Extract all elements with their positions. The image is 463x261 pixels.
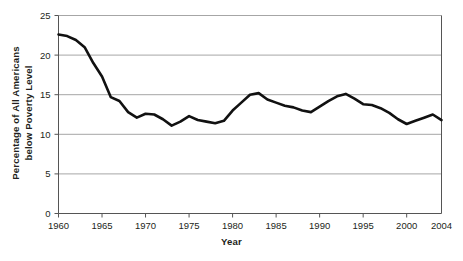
y-tick-label-10: 10 bbox=[40, 129, 51, 140]
x-tick-label-1985: 1985 bbox=[266, 220, 287, 231]
y-tick-label-25: 25 bbox=[40, 10, 51, 21]
x-tick-label-2004: 2004 bbox=[431, 220, 452, 231]
poverty-rate-line-chart: 0510152025 19601965197019751980198519901… bbox=[0, 0, 463, 261]
x-axis-title: Year bbox=[0, 236, 463, 247]
x-tick-label-2000: 2000 bbox=[396, 220, 417, 231]
x-tick-label-1995: 1995 bbox=[353, 220, 374, 231]
poverty-rate-series-line bbox=[59, 35, 442, 126]
x-tick-label-1980: 1980 bbox=[222, 220, 243, 231]
y-axis-ticks-group: 0510152025 bbox=[40, 10, 59, 219]
y-tick-label-15: 15 bbox=[40, 89, 51, 100]
x-axis-ticks-group: 1960196519701975198019851990199520002004 bbox=[48, 214, 452, 232]
y-tick-label-0: 0 bbox=[45, 208, 50, 219]
x-tick-label-1975: 1975 bbox=[178, 220, 199, 231]
plot-area-frame bbox=[59, 16, 442, 214]
x-tick-label-1970: 1970 bbox=[135, 220, 156, 231]
x-tick-label-1965: 1965 bbox=[91, 220, 112, 231]
x-tick-label-1990: 1990 bbox=[309, 220, 330, 231]
y-tick-label-20: 20 bbox=[40, 50, 51, 61]
y-tick-label-5: 5 bbox=[45, 168, 50, 179]
chart-canvas: 0510152025 19601965197019751980198519901… bbox=[0, 0, 463, 261]
x-tick-label-1960: 1960 bbox=[48, 220, 69, 231]
data-series-group bbox=[59, 35, 442, 126]
